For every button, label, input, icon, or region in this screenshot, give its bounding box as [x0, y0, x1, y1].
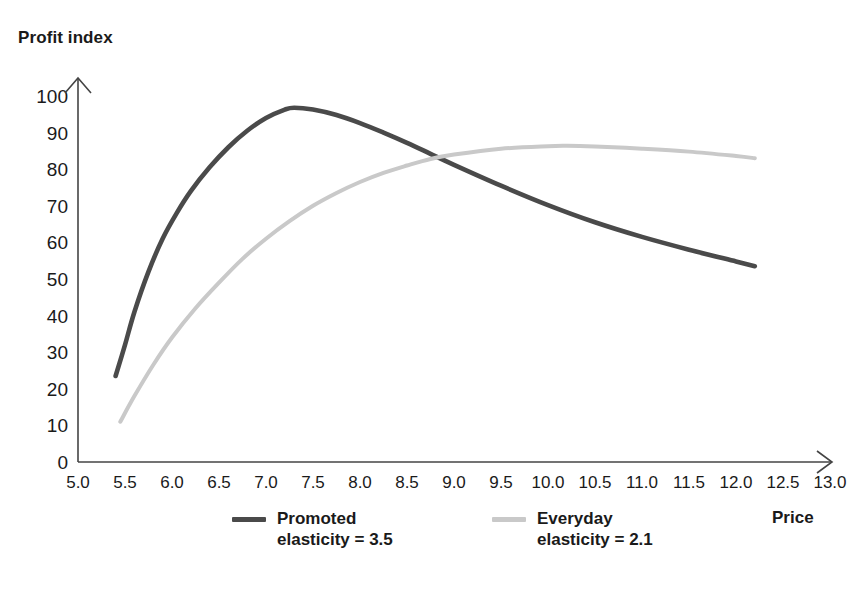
legend-swatch-promoted — [232, 517, 266, 522]
data-series-group — [116, 108, 755, 422]
legend-label-promoted: Promoted elasticity = 3.5 — [277, 508, 393, 550]
plot-area — [0, 0, 864, 592]
legend-label-promoted-name: Promoted — [277, 508, 393, 529]
legend-label-promoted-sublabel: elasticity = 3.5 — [277, 529, 393, 550]
legend-item-everyday: Everyday elasticity = 2.1 — [492, 508, 653, 550]
legend-label-everyday: Everyday elasticity = 2.1 — [537, 508, 653, 550]
legend-item-promoted: Promoted elasticity = 3.5 — [232, 508, 393, 550]
legend-label-everyday-name: Everyday — [537, 508, 653, 529]
profit-index-chart: Profit index Price 100908070605040302010… — [0, 0, 864, 592]
series-line-everyday — [120, 146, 755, 422]
legend-swatch-everyday — [492, 517, 526, 522]
legend-label-everyday-sublabel: elasticity = 2.1 — [537, 529, 653, 550]
axis-lines — [65, 78, 832, 473]
